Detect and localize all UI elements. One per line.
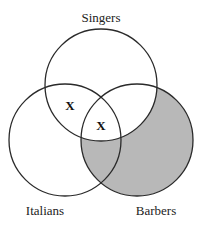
venn-diagram: Singers Italians Barbers X X [0,0,205,230]
label-singers: Singers [82,10,121,25]
label-italians: Italians [26,203,64,218]
x-mark-singers-italians: X [65,98,75,113]
label-barbers: Barbers [136,203,176,218]
shaded-region-barbers-not-singers [0,0,205,230]
x-mark-all-three: X [96,118,106,133]
